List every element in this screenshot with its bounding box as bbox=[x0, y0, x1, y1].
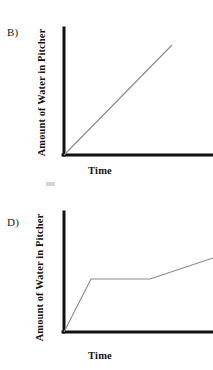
data-series-line-d bbox=[64, 258, 213, 332]
y-axis-label-d: Amount of Water in Pitcher bbox=[34, 185, 46, 370]
x-axis-label-d: Time bbox=[88, 350, 112, 362]
chart-panel-d: D) Amount of Water in Pitcher Time bbox=[0, 185, 213, 370]
plot-area-b bbox=[0, 0, 213, 185]
x-axis-label-b: Time bbox=[88, 165, 112, 177]
y-axis-label-b: Amount of Water in Pitcher bbox=[36, 0, 48, 185]
plot-area-d bbox=[0, 185, 213, 370]
data-series-line-b bbox=[64, 45, 172, 155]
chart-panel-b: B) Amount of Water in Pitcher Time bbox=[0, 0, 213, 185]
